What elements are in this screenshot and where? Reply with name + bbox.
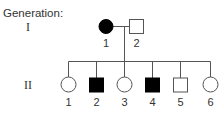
individual-number: 3: [121, 96, 127, 108]
individual-II-4-affected-male: [146, 78, 160, 92]
generation-label-II: II: [24, 78, 32, 92]
individual-II-1-unaffected-female: [61, 77, 76, 92]
individual-II-6-unaffected-female: [203, 77, 218, 92]
individual-number: 1: [65, 96, 71, 108]
pedigree-diagram: Generation: I II 1 2 1 2 3 4 5 6: [0, 0, 224, 114]
individual-I-1-affected-female: [99, 20, 113, 34]
individual-II-3-unaffected-female: [117, 77, 132, 92]
individual-number: 2: [133, 37, 139, 49]
generation-label-I: I: [26, 20, 30, 34]
generation-title: Generation:: [3, 7, 63, 19]
individual-I-2-unaffected-male: [130, 20, 144, 34]
individual-number: 4: [149, 96, 155, 108]
individual-number: 1: [103, 37, 109, 49]
pedigree-lines: [69, 27, 211, 79]
individual-II-2-affected-male: [90, 78, 104, 92]
individual-number: 2: [93, 96, 99, 108]
individual-number: 5: [177, 96, 183, 108]
individual-number: 6: [207, 96, 213, 108]
individual-II-5-unaffected-male: [174, 78, 188, 92]
